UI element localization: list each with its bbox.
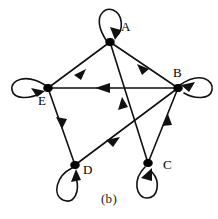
node-label-e: E [38,94,46,107]
figure-container: A B C D E (b) [0,0,218,219]
node-a[interactable] [106,38,114,45]
node-label-c: C [163,158,172,171]
edge-a-to-b [110,42,178,88]
arrowhead-a-to-e [74,69,86,80]
node-c[interactable] [144,159,152,166]
edge-c-to-a [110,42,148,163]
arrowhead-c-to-a [118,97,128,110]
arrowhead-self-loop-d [71,169,81,182]
node-e[interactable] [44,84,52,91]
node-label-b: B [173,66,182,79]
node-label-d: D [83,163,92,176]
node-b[interactable] [174,84,182,91]
arrowhead-a-to-b [137,64,149,75]
self-loop-a [99,9,121,40]
edge-a-to-e [48,42,110,88]
arrowhead-e-to-d [56,117,67,129]
figure-caption: (b) [0,191,218,207]
node-label-a: A [121,20,130,33]
node-d[interactable] [71,161,79,168]
node-group [44,38,182,168]
directed-graph-drawing [0,0,218,219]
arrowhead-b-to-d [106,137,120,147]
arrowhead-b-to-e [95,83,110,93]
edge-group [48,42,178,165]
